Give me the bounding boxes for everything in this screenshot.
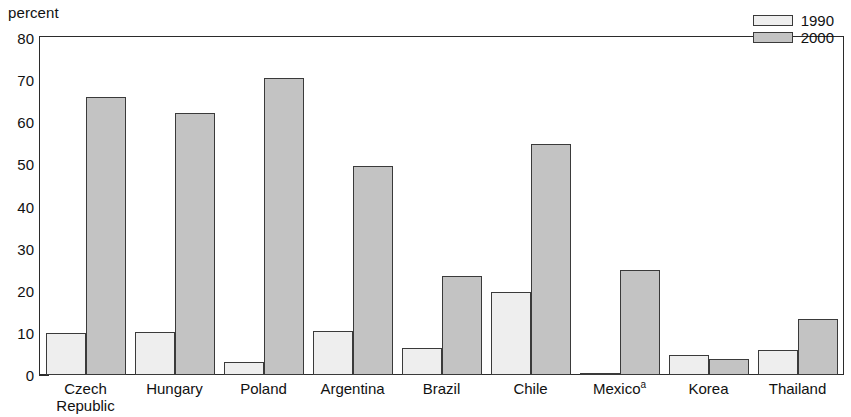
bar-2000 <box>86 97 126 375</box>
bar-1990 <box>313 331 353 375</box>
bar-1990 <box>135 332 175 375</box>
footnote-marker: a <box>640 379 646 390</box>
bar-1990 <box>402 348 442 375</box>
y-axis-unit-label: percent <box>8 4 59 21</box>
x-axis-label-line1: Czech <box>64 380 107 397</box>
x-axis-label: Mexicoa <box>593 380 646 397</box>
bar-group <box>46 38 126 375</box>
x-axis-label: Brazil <box>423 380 461 397</box>
y-tick-label: 10 <box>4 324 34 341</box>
bar-2000 <box>709 359 749 375</box>
legend-label-2000: 2000 <box>801 30 834 46</box>
bar-group <box>758 38 838 375</box>
bar-group <box>313 38 393 375</box>
x-axis-label: Argentina <box>320 380 384 397</box>
y-tick-label: 20 <box>4 282 34 299</box>
bar-group <box>135 38 215 375</box>
bar-2000 <box>531 144 571 375</box>
x-axis-label: Chile <box>513 380 547 397</box>
y-tick-label: 40 <box>4 198 34 215</box>
chart-legend: 1990 2000 <box>749 9 839 49</box>
bar-2000 <box>620 270 660 375</box>
bar-group <box>491 38 571 375</box>
x-axis-label-line1: Hungary <box>146 380 203 397</box>
y-tick-label: 0 <box>4 367 34 384</box>
x-axis-label: Hungary <box>146 380 203 397</box>
x-axis-label-line1: Mexico <box>593 380 641 397</box>
x-axis-label-line1: Brazil <box>423 380 461 397</box>
x-axis-label: Korea <box>688 380 728 397</box>
y-axis-labels: 80706050403020100 <box>0 38 34 375</box>
bar-1990 <box>224 362 264 375</box>
bar-1990 <box>491 292 531 375</box>
x-axis-label-line1: Poland <box>240 380 287 397</box>
legend-swatch-2000 <box>753 32 793 43</box>
legend-swatch-1990 <box>753 15 793 26</box>
bar-group <box>224 38 304 375</box>
y-tick-label: 60 <box>4 114 34 131</box>
plot-area <box>41 38 842 375</box>
bar-2000 <box>353 166 393 375</box>
bar-2000 <box>264 78 304 375</box>
y-tick-label: 30 <box>4 240 34 257</box>
legend-item-2000: 2000 <box>753 29 834 46</box>
bar-1990 <box>758 350 798 375</box>
legend-item-1990: 1990 <box>753 12 834 29</box>
y-tick-label: 80 <box>4 30 34 47</box>
y-tick-label: 70 <box>4 72 34 89</box>
bar-group <box>669 38 749 375</box>
bar-chart: percent 80706050403020100 CzechRepublicH… <box>0 0 851 417</box>
x-axis-label: CzechRepublic <box>56 380 114 414</box>
y-tick-major <box>39 375 49 376</box>
x-axis-label: Poland <box>240 380 287 397</box>
x-axis-label: Thailand <box>769 380 827 397</box>
x-axis-label-line1: Thailand <box>769 380 827 397</box>
bar-2000 <box>175 113 215 375</box>
bar-group <box>580 38 660 375</box>
x-axis-category-labels: CzechRepublicHungaryPolandArgentinaBrazi… <box>41 380 842 417</box>
bar-1990 <box>580 373 620 375</box>
bar-1990 <box>46 333 86 375</box>
legend-label-1990: 1990 <box>801 13 834 29</box>
bar-2000 <box>442 276 482 375</box>
x-axis-label-line1: Korea <box>688 380 728 397</box>
bar-1990 <box>669 355 709 375</box>
x-axis-label-line1: Chile <box>513 380 547 397</box>
bar-2000 <box>798 319 838 375</box>
bar-group <box>402 38 482 375</box>
y-tick-label: 50 <box>4 156 34 173</box>
x-axis-label-line1: Argentina <box>320 380 384 397</box>
x-axis-label-line2: Republic <box>56 397 114 414</box>
